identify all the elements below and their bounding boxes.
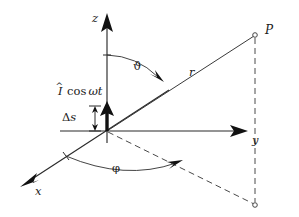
point-p-projection-marker [253,203,258,208]
current-element-label: I^cosωt [58,86,102,98]
phi-arc-path [66,156,176,171]
r-vector-label: r [189,67,195,79]
point-p-label: P [265,24,273,36]
xy-projection-line [108,132,254,204]
x-axis-label: x [35,186,42,198]
xy-projection-ray [108,132,254,204]
y-axis-label: y [252,135,259,147]
point-p-marker [253,33,258,38]
z-axis-label: z [92,13,98,25]
current-omega-t-symbol: ωt [88,84,102,98]
phi-angle-arc [63,152,183,171]
delta-s-dimension [89,106,101,131]
delta-s-label: Δs [62,112,76,124]
current-cosine-symbol: cos [67,84,86,98]
x-axis-line [29,90,169,181]
diagram-canvas [0,0,299,217]
r-vector-line [107,36,254,131]
y-axis [60,125,248,137]
r-vector [107,36,254,131]
current-hat-accent: ^ [56,81,64,91]
s-symbol: s [70,110,76,124]
hertzian-dipole-diagram: z y x P r ϑ φ I^cosωt Δs [0,0,299,217]
phi-angle-label: φ [112,163,120,175]
x-axis [20,90,169,187]
theta-angle-label: ϑ [133,61,141,73]
